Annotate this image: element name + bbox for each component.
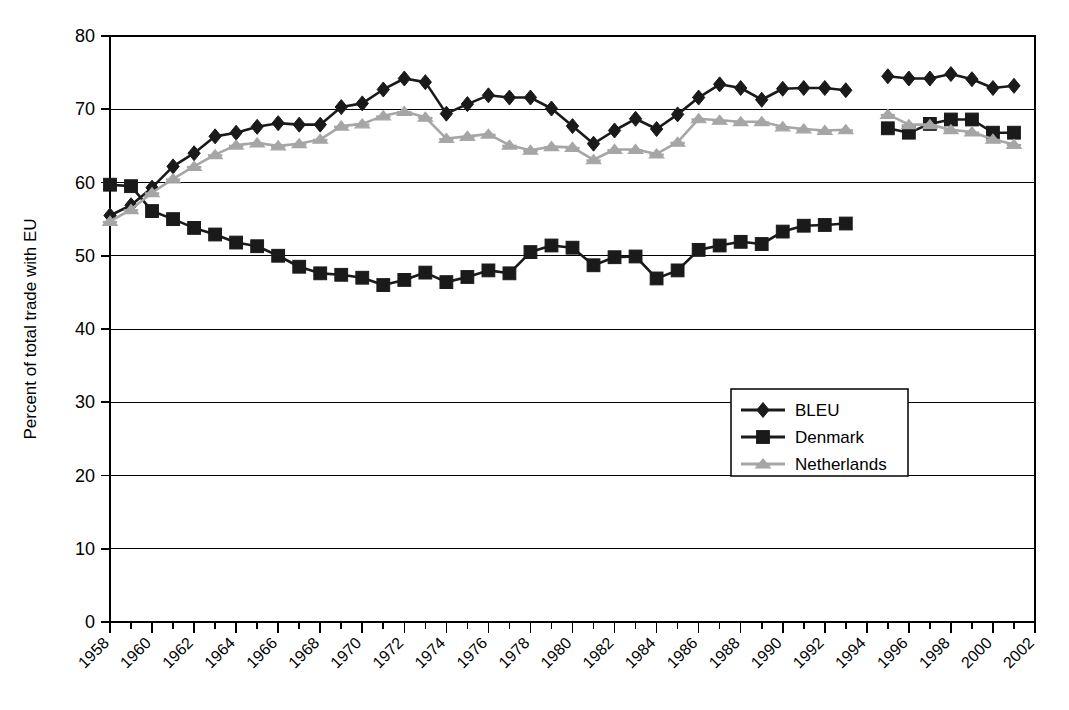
chart-figure: 1958196019621964196619681970197219741976… xyxy=(0,0,1069,710)
diamond-marker xyxy=(209,129,221,144)
square-marker xyxy=(188,222,201,235)
series-denmark xyxy=(104,113,1021,291)
diamond-marker xyxy=(777,81,789,96)
chart-canvas: 1958196019621964196619681970197219741976… xyxy=(0,0,1069,710)
square-marker xyxy=(146,205,159,218)
x-axis-ticks-group xyxy=(110,622,1035,633)
diamond-marker xyxy=(398,71,410,86)
x-tick-label: 1998 xyxy=(916,634,953,671)
x-tick-label: 1968 xyxy=(285,634,322,671)
x-tick-label: 1962 xyxy=(159,634,196,671)
square-marker xyxy=(377,279,390,292)
legend-label: Netherlands xyxy=(795,455,887,474)
x-tick-label: 1958 xyxy=(75,634,112,671)
diamond-marker xyxy=(293,117,305,132)
series-line xyxy=(110,111,846,221)
diamond-marker xyxy=(188,146,200,161)
square-marker xyxy=(734,235,747,248)
square-marker xyxy=(966,113,979,126)
diamond-marker xyxy=(356,96,368,111)
square-marker xyxy=(566,241,579,254)
square-marker xyxy=(209,228,222,241)
x-tick-label: 1982 xyxy=(579,634,616,671)
square-marker xyxy=(356,271,369,284)
diamond-marker xyxy=(251,119,263,134)
square-marker xyxy=(839,217,852,230)
square-marker xyxy=(671,264,684,277)
square-marker xyxy=(755,238,768,251)
square-marker xyxy=(776,225,789,238)
diamond-marker xyxy=(629,111,641,126)
square-marker xyxy=(629,250,642,263)
x-tick-label: 2000 xyxy=(958,634,995,671)
x-tick-label: 1990 xyxy=(748,634,785,671)
x-tick-label: 1988 xyxy=(706,634,743,671)
square-marker xyxy=(503,267,516,280)
chart-legend: BLEUDenmarkNetherlands xyxy=(731,389,908,476)
diamond-marker xyxy=(692,90,704,105)
square-marker xyxy=(757,431,770,444)
series-line xyxy=(110,78,846,215)
diamond-marker xyxy=(608,123,620,138)
star-marker xyxy=(397,106,411,115)
x-tick-label: 1974 xyxy=(411,634,448,671)
diamond-marker xyxy=(756,92,768,107)
diamond-marker xyxy=(798,81,810,96)
diamond-marker xyxy=(714,77,726,92)
y-tick-label: 30 xyxy=(75,392,95,412)
x-tick-label: 1966 xyxy=(243,634,280,671)
x-tick-label: 1996 xyxy=(874,634,911,671)
square-marker xyxy=(230,236,243,249)
x-tick-label: 1992 xyxy=(790,634,827,671)
diamond-marker xyxy=(882,69,894,84)
square-marker xyxy=(524,246,537,259)
y-tick-label: 0 xyxy=(85,612,95,632)
square-marker xyxy=(251,240,264,253)
square-marker xyxy=(272,249,285,262)
square-marker xyxy=(104,178,117,191)
x-tick-label: 1970 xyxy=(327,634,364,671)
diamond-marker xyxy=(924,71,936,86)
square-marker xyxy=(818,219,831,232)
square-marker xyxy=(482,264,495,277)
y-axis-title: Percent of total trade with EU xyxy=(21,218,40,439)
square-marker xyxy=(587,259,600,272)
square-marker xyxy=(797,219,810,232)
diamond-marker xyxy=(840,83,852,98)
square-marker xyxy=(167,213,180,226)
y-tick-label: 60 xyxy=(75,173,95,193)
square-marker xyxy=(650,272,663,285)
square-marker xyxy=(881,122,894,135)
diamond-marker xyxy=(272,116,284,131)
x-tick-label: 1978 xyxy=(495,634,532,671)
x-tick-label: 2002 xyxy=(1000,634,1037,671)
square-marker xyxy=(440,276,453,289)
diamond-marker xyxy=(650,122,662,137)
square-marker xyxy=(692,243,705,256)
x-tick-label: 1984 xyxy=(622,634,659,671)
diamond-marker xyxy=(1008,78,1020,93)
square-marker xyxy=(293,260,306,273)
y-tick-label: 10 xyxy=(75,539,95,559)
diamond-marker xyxy=(377,82,389,97)
x-tick-label: 1964 xyxy=(201,634,238,671)
diamond-marker xyxy=(735,81,747,96)
legend-label: BLEU xyxy=(795,401,839,420)
star-marker xyxy=(881,109,895,118)
y-axis-ticks-group xyxy=(101,36,110,622)
square-marker xyxy=(545,239,558,252)
x-tick-label: 1972 xyxy=(369,634,406,671)
diamond-marker xyxy=(230,125,242,140)
y-axis-labels-group: 01020304050607080 xyxy=(75,26,95,632)
y-tick-label: 20 xyxy=(75,466,95,486)
diamond-marker xyxy=(524,90,536,105)
y-tick-label: 80 xyxy=(75,26,95,46)
square-marker xyxy=(335,268,348,281)
diamond-marker xyxy=(987,81,999,96)
diamond-marker xyxy=(903,71,915,86)
square-marker xyxy=(713,239,726,252)
x-axis-labels-group: 1958196019621964196619681970197219741976… xyxy=(75,634,1037,671)
y-tick-label: 40 xyxy=(75,319,95,339)
x-tick-label: 1980 xyxy=(537,634,574,671)
square-marker xyxy=(125,180,138,193)
